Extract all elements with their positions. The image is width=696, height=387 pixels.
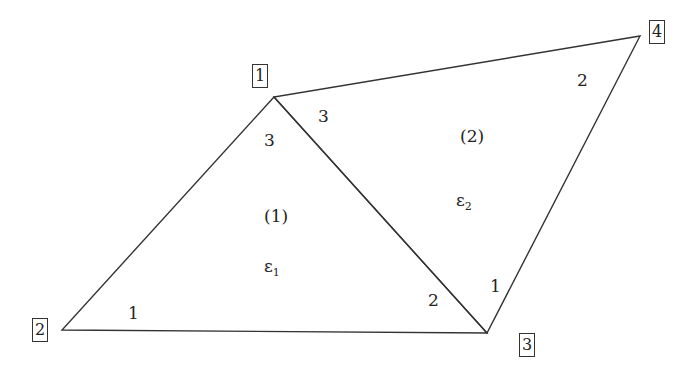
strain-subscript: 2 xyxy=(465,200,472,213)
element-2-local-node-2: 2 xyxy=(577,72,588,89)
mesh-edges xyxy=(0,0,696,387)
element-2-id: (2) xyxy=(460,128,484,145)
element-1-strain: ε1 xyxy=(264,258,280,278)
strain-subscript: 1 xyxy=(273,266,280,279)
element-1-local-node-2: 2 xyxy=(428,292,439,309)
element-2-local-node-1: 1 xyxy=(490,278,501,295)
element-2-strain: ε2 xyxy=(456,192,472,212)
element-1-local-node-3: 3 xyxy=(264,132,275,149)
strain-symbol: ε xyxy=(264,256,273,276)
element-2-local-node-3: 3 xyxy=(318,108,329,125)
element-1-local-node-1: 1 xyxy=(128,305,139,322)
global-node-1-label: 1 xyxy=(252,64,268,88)
global-node-2-label: 2 xyxy=(32,318,48,342)
element-1-id: (1) xyxy=(264,208,288,225)
global-node-3-label: 3 xyxy=(519,333,535,357)
global-node-4-label: 4 xyxy=(649,20,665,44)
strain-symbol: ε xyxy=(456,190,465,210)
